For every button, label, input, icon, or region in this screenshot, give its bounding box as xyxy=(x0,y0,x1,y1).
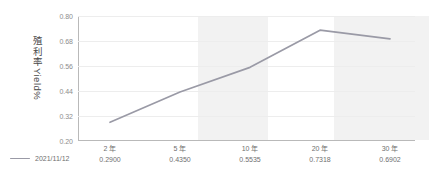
x-axis-category-label: 5 年 xyxy=(169,143,190,154)
y-tick-label: 0.68 xyxy=(59,38,73,45)
x-axis-category-group: 2 年0.29005 年0.435010 年0.553520 年0.731830… xyxy=(78,143,415,176)
x-axis-category-value: 0.7318 xyxy=(309,154,330,166)
x-axis-category-label: 30 年 xyxy=(379,143,400,154)
y-tick-label: 0.56 xyxy=(59,63,73,70)
x-axis-category-value: 0.2900 xyxy=(99,154,120,166)
x-axis-category-label: 10 年 xyxy=(239,143,260,154)
x-axis-category: 30 年0.6902 xyxy=(379,143,400,166)
y-tick-label: 0.20 xyxy=(59,138,73,145)
legend: 2021/11/12 xyxy=(10,155,70,162)
legend-label: 2021/11/12 xyxy=(35,155,70,162)
y-tick-label: 0.32 xyxy=(59,113,73,120)
series-line-svg xyxy=(78,16,415,141)
x-axis-category: 2 年0.2900 xyxy=(99,143,120,166)
x-axis-category-value: 0.6902 xyxy=(379,154,400,166)
y-axis-title-latin: Yield% xyxy=(32,68,42,100)
series-line-2021-11-12 xyxy=(110,30,390,122)
y-tick-label: 0.44 xyxy=(59,88,73,95)
y-axis-title-cjk: 殖利率 xyxy=(32,36,42,68)
plot-area: 0.800.680.560.440.320.20 xyxy=(78,16,415,141)
x-axis-category: 5 年0.4350 xyxy=(169,143,190,166)
legend-line-swatch xyxy=(10,158,30,160)
x-axis-category-value: 0.5535 xyxy=(239,154,260,166)
y-axis-title: 殖利率Yield% xyxy=(16,8,42,128)
gridline xyxy=(78,141,415,142)
x-axis-category-label: 2 年 xyxy=(99,143,120,154)
x-axis-category: 20 年0.7318 xyxy=(309,143,330,166)
x-axis-category-label: 20 年 xyxy=(309,143,330,154)
y-tick-label: 0.80 xyxy=(59,13,73,20)
x-axis-category-value: 0.4350 xyxy=(169,154,190,166)
x-axis-category: 10 年0.5535 xyxy=(239,143,260,166)
